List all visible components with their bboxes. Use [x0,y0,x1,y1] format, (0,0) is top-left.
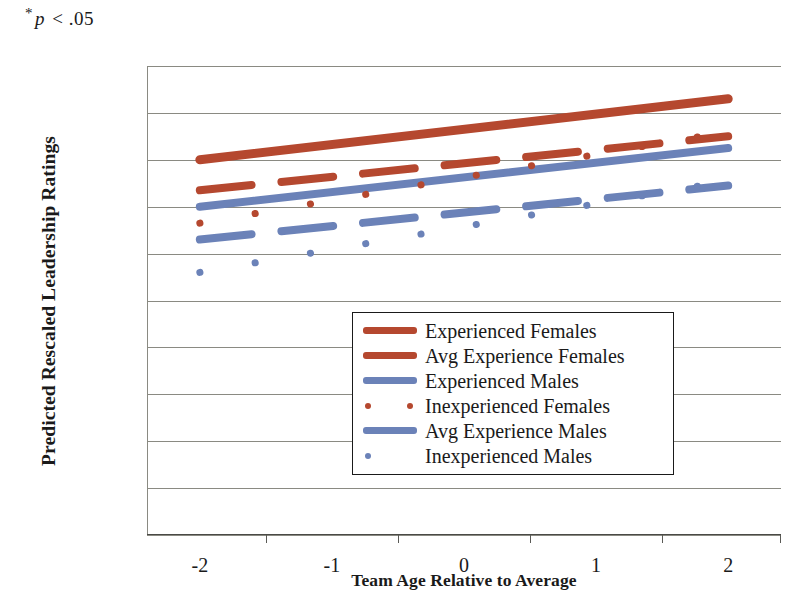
x-tick-label: 0 [424,554,504,577]
legend-dot-icon [407,403,413,409]
series-line [200,136,728,190]
legend-label: Experienced Females [425,321,597,341]
legend-dot-icon [365,403,371,409]
legend-swatch-icon [361,446,419,466]
legend-swatch-icon [361,346,419,366]
asterisk-icon: * [25,5,33,21]
legend-swatch-icon [361,321,419,341]
series-line [200,148,728,207]
p-symbol: p [33,8,47,29]
legend-label: Experienced Males [425,371,579,391]
legend: Experienced FemalesAvg Experience Female… [352,312,674,475]
legend-swatch-icon [361,371,419,391]
x-axis-tick [530,535,531,543]
significance-annotation: *p < .05 [25,6,94,28]
series-line [200,99,728,160]
legend-line-icon [363,327,417,334]
legend-swatch-icon [361,421,419,441]
x-tick-label: 1 [556,554,636,577]
x-axis-tick [662,535,663,543]
x-tick-label: 2 [688,554,768,577]
legend-label: Avg Experience Females [425,346,625,366]
legend-item[interactable]: Avg Experience Females [361,343,665,368]
legend-line-icon [363,427,417,434]
legend-swatch-icon [361,396,419,416]
legend-line-icon [363,377,417,384]
series-line [200,186,728,240]
legend-item[interactable]: Inexperienced Males [361,443,665,468]
x-axis-tick [266,535,267,543]
gridline [147,535,781,536]
significance-threshold: < .05 [47,8,94,29]
chart-figure: *p < .05 Predicted Rescaled Leadership R… [0,0,798,612]
legend-line-icon [363,352,417,359]
legend-label: Inexperienced Males [425,446,592,466]
legend-label: Inexperienced Females [425,396,610,416]
x-tick-label: -2 [160,554,240,577]
x-tick-label: -1 [292,554,372,577]
legend-item[interactable]: Inexperienced Females [361,393,665,418]
y-axis-title: Predicted Rescaled Leadership Ratings [38,66,60,536]
x-axis-tick [398,535,399,543]
x-axis-tick [780,535,781,543]
legend-item[interactable]: Experienced Females [361,318,665,343]
legend-item[interactable]: Experienced Males [361,368,665,393]
legend-label: Avg Experience Males [425,421,607,441]
legend-dot-icon [365,453,371,459]
legend-item[interactable]: Avg Experience Males [361,418,665,443]
